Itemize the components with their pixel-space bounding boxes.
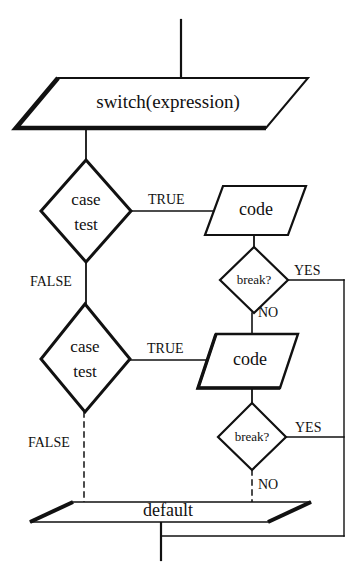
- flowchart-svg: switch(expression) case test code break?…: [0, 0, 361, 577]
- edge-label-yes-2: YES: [295, 420, 321, 435]
- case-test-2-shape: [41, 304, 130, 412]
- break-1-label: break?: [237, 272, 272, 287]
- node-code-2[interactable]: code: [198, 334, 298, 388]
- case-test-1-shape: [41, 160, 131, 262]
- node-break-1[interactable]: break?: [220, 247, 288, 313]
- code-2-label: code: [233, 349, 267, 369]
- node-case-test-2[interactable]: case test: [41, 304, 130, 412]
- case-test-2-label-line2: test: [73, 362, 97, 381]
- edge-label-false-2: FALSE: [28, 435, 70, 450]
- case-test-1-label-line2: test: [74, 215, 98, 234]
- flowchart-canvas: switch(expression) case test code break?…: [0, 0, 361, 577]
- edge-label-false-1: FALSE: [30, 274, 72, 289]
- code-1-label: code: [239, 199, 273, 219]
- break-2-label: break?: [235, 429, 270, 444]
- edge-label-yes-1: YES: [294, 263, 320, 278]
- switch-label: switch(expression): [96, 91, 240, 113]
- case-test-1-label-line1: case: [71, 190, 100, 209]
- edge-label-true-2: TRUE: [147, 341, 184, 356]
- node-default[interactable]: default: [30, 500, 311, 522]
- case-test-2-label-line1: case: [70, 337, 99, 356]
- node-code-1[interactable]: code: [205, 186, 306, 235]
- edge-label-no-2: NO: [258, 477, 278, 492]
- node-switch[interactable]: switch(expression): [16, 78, 308, 128]
- node-case-test-1[interactable]: case test: [41, 160, 131, 262]
- node-break-2[interactable]: break?: [218, 403, 286, 470]
- edge-label-no-1: NO: [258, 305, 278, 320]
- edge-label-true-1: TRUE: [148, 192, 185, 207]
- default-label: default: [143, 500, 193, 520]
